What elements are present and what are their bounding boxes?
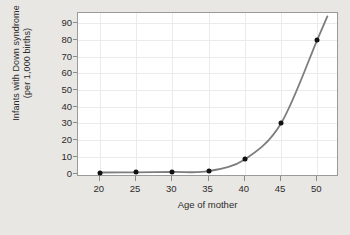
- y-axis-tick-label: 70: [50, 50, 72, 61]
- data-point: [134, 170, 139, 175]
- x-axis-tick-label: 40: [229, 183, 259, 194]
- plot-area: [77, 12, 338, 176]
- y-axis-tick-label: 80: [50, 33, 72, 44]
- y-axis-tick-label: 90: [50, 17, 72, 28]
- curve-path: [100, 16, 328, 172]
- x-axis-tick-mark: [244, 176, 245, 181]
- x-axis-tick-label: 35: [193, 183, 223, 194]
- y-axis-title: Infants with Down syndrome (per 1,000 bi…: [11, 0, 41, 143]
- y-axis-tick-label: 50: [50, 84, 72, 95]
- data-point: [206, 169, 211, 174]
- y-axis-tick-label: 40: [50, 100, 72, 111]
- x-axis-tick-mark: [208, 176, 209, 181]
- data-point: [170, 170, 175, 175]
- y-axis-tick-label: 60: [50, 67, 72, 78]
- x-axis-title: Age of mother: [77, 199, 338, 210]
- x-axis-tick-label: 45: [265, 183, 295, 194]
- x-axis-tick-mark: [280, 176, 281, 181]
- y-axis-tick-labels: 0102030405060708090: [50, 0, 72, 235]
- data-curve: [78, 13, 339, 177]
- chart-figure: Infants with Down syndrome (per 1,000 bi…: [0, 0, 350, 235]
- data-point: [315, 37, 320, 42]
- x-axis-tick-label: 20: [84, 183, 114, 194]
- y-axis-title-line2: (per 1,000 births): [22, 0, 33, 143]
- x-axis-tick-label: 50: [301, 183, 331, 194]
- y-axis-tick-label: 10: [50, 150, 72, 161]
- data-point: [97, 170, 102, 175]
- x-axis-tick-mark: [99, 176, 100, 181]
- x-axis-tick-mark: [316, 176, 317, 181]
- data-point: [279, 121, 284, 126]
- y-axis-title-line1: Infants with Down syndrome: [11, 5, 21, 121]
- x-axis-tick-label: 25: [120, 183, 150, 194]
- y-axis-tick-label: 0: [50, 167, 72, 178]
- x-axis-tick-mark: [171, 176, 172, 181]
- y-axis-tick-label: 20: [50, 134, 72, 145]
- plot-inner: [78, 13, 337, 175]
- data-point: [242, 157, 247, 162]
- x-axis-tick-label: 30: [156, 183, 186, 194]
- x-axis-tick-mark: [135, 176, 136, 181]
- y-axis-tick-label: 30: [50, 117, 72, 128]
